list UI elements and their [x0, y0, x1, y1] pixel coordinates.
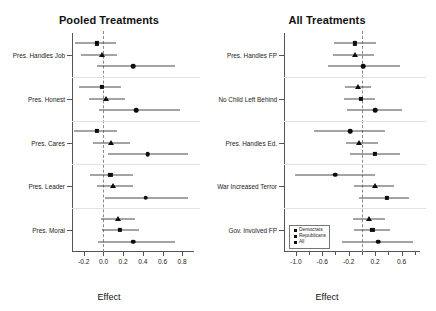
x-axis-title-right: Effect — [218, 292, 436, 302]
y-axis-tick — [67, 55, 72, 56]
legend-label: All — [299, 240, 304, 245]
estimate-marker-triangle — [99, 52, 105, 57]
y-axis-tick — [67, 143, 72, 144]
x-axis-tick — [362, 252, 363, 255]
x-axis-tick-label: 0.2 — [119, 258, 128, 265]
estimate-marker-triangle — [366, 216, 372, 221]
x-axis-tick — [322, 252, 323, 256]
estimate-marker-circle — [134, 108, 139, 113]
category-separator — [284, 121, 426, 122]
legend: DemocratsRepublicansAll — [289, 225, 330, 249]
x-axis-tick — [309, 252, 310, 255]
legend-marker-icon — [292, 235, 299, 238]
y-axis-category-label: No Child Left Behind — [218, 95, 277, 102]
category-separator — [284, 164, 426, 165]
estimate-marker-triangle — [110, 183, 116, 188]
x-axis-tick-label: 0.6 — [397, 258, 406, 265]
x-axis-line-left — [72, 251, 194, 252]
x-axis-tick — [123, 252, 124, 256]
y-axis-line-left — [72, 33, 73, 252]
x-axis-tick — [375, 252, 376, 256]
x-axis-tick — [296, 252, 297, 256]
y-axis-category-label: War Increased Terror — [217, 183, 277, 190]
confidence-interval-bar — [99, 110, 181, 111]
panel-title-right: All Treatments — [218, 14, 436, 26]
x-axis-tick — [143, 252, 144, 256]
y-axis-category-label: Pres. Honest — [28, 95, 65, 102]
x-axis-tick — [103, 252, 104, 256]
category-separator — [72, 121, 200, 122]
panel-title-left: Pooled Treatments — [0, 14, 218, 26]
estimate-marker-circle — [348, 129, 353, 134]
x-axis-line-right — [284, 251, 420, 252]
x-axis-tick — [335, 252, 336, 255]
x-axis-tick-label: 0.0 — [99, 258, 108, 265]
x-axis-tick-label: -0.2 — [78, 258, 89, 265]
legend-item: All — [292, 240, 326, 246]
estimate-marker-triangle — [103, 96, 109, 101]
estimate-marker-square — [373, 152, 377, 156]
y-axis-tick — [279, 99, 284, 100]
estimate-marker-circle — [143, 196, 148, 201]
x-axis-tick-label: -0.6 — [317, 258, 328, 265]
legend-item: Republicans — [292, 234, 326, 240]
category-separator — [72, 77, 200, 78]
x-axis-title-left: Effect — [0, 292, 218, 302]
estimate-marker-square — [385, 196, 389, 200]
category-separator — [72, 208, 200, 209]
estimate-marker-circle — [131, 64, 136, 69]
y-axis-category-label: Pres. Leader — [28, 183, 65, 190]
y-axis-category-label: Gov. Involved FP — [228, 227, 277, 234]
estimate-marker-square — [118, 228, 122, 232]
x-axis-tick-label: -1.0 — [290, 258, 301, 265]
panel-pooled-treatments: Pooled Treatments -0.20.00.20.40.60.8Pre… — [0, 0, 218, 311]
estimate-marker-square — [99, 85, 103, 89]
y-axis-tick — [67, 186, 72, 187]
x-axis-tick — [402, 252, 403, 256]
estimate-marker-circle — [333, 172, 338, 177]
confidence-interval-bar — [97, 66, 176, 67]
estimate-marker-square — [358, 97, 362, 101]
plot-area-left: -0.20.00.20.40.60.8Pres. Handles JobPres… — [72, 33, 194, 252]
legend-marker-icon — [292, 229, 299, 232]
x-axis-tick-label: 0.8 — [178, 258, 187, 265]
y-axis-category-label: Pres. Handles Ed. — [225, 139, 277, 146]
estimate-marker-triangle — [356, 140, 362, 145]
estimate-marker-square — [95, 129, 99, 133]
y-axis-category-label: Pres. Moral — [32, 227, 65, 234]
plot-area-right: -1.0-0.6-0.20.20.6Pres. Handles FPNo Chi… — [284, 33, 420, 252]
y-axis-tick — [67, 99, 72, 100]
estimate-marker-triangle — [108, 140, 114, 145]
x-axis-tick — [349, 252, 350, 256]
estimate-marker-circle — [376, 239, 381, 244]
y-axis-category-label: Pres. Cares — [31, 139, 65, 146]
x-axis-tick — [182, 252, 183, 256]
estimate-marker-square — [95, 41, 99, 45]
category-separator — [284, 208, 426, 209]
y-axis-tick — [67, 230, 72, 231]
panel-all-treatments: All Treatments -1.0-0.6-0.20.20.6Pres. H… — [218, 0, 436, 311]
estimate-marker-circle — [373, 108, 378, 113]
y-axis-tick — [279, 186, 284, 187]
y-axis-category-label: Pres. Handles FP — [227, 51, 277, 58]
x-axis-tick — [84, 252, 85, 256]
estimate-marker-circle — [361, 64, 366, 69]
y-axis-tick — [279, 143, 284, 144]
legend-marker-icon — [292, 241, 299, 244]
estimate-marker-square — [370, 228, 374, 232]
estimate-marker-triangle — [115, 216, 121, 221]
y-axis-tick — [279, 55, 284, 56]
category-separator — [72, 164, 200, 165]
x-axis-tick-label: 0.4 — [138, 258, 147, 265]
x-axis-tick — [163, 252, 164, 256]
estimate-marker-circle — [145, 152, 150, 157]
y-axis-category-label: Pres. Handles Job — [13, 51, 65, 58]
x-axis-tick-label: 0.2 — [371, 258, 380, 265]
y-axis-line-right — [284, 33, 285, 252]
x-axis-tick — [388, 252, 389, 255]
estimate-marker-triangle — [355, 84, 361, 89]
y-axis-tick — [279, 230, 284, 231]
confidence-interval-bar — [98, 241, 176, 242]
category-separator — [284, 77, 426, 78]
estimate-marker-square — [108, 173, 112, 177]
